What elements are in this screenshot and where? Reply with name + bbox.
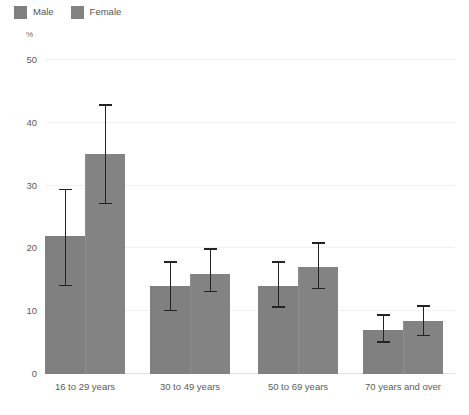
error-bar-cap-bottom bbox=[204, 291, 217, 293]
x-axis-label: 30 to 49 years bbox=[160, 381, 220, 392]
legend-item-female[interactable]: Female bbox=[71, 6, 122, 19]
error-bar-cap-bottom bbox=[377, 341, 390, 343]
error-bar-stem bbox=[318, 242, 320, 289]
error-bar bbox=[272, 261, 285, 308]
error-bar-cap-bottom bbox=[272, 306, 285, 308]
error-bar-cap-bottom bbox=[417, 335, 430, 337]
legend-label-female: Female bbox=[90, 7, 122, 17]
error-bar bbox=[59, 189, 72, 286]
error-bar bbox=[164, 261, 177, 311]
legend-item-male[interactable]: Male bbox=[14, 6, 54, 19]
bar-chart: Male Female % 01020304050 16 to 29 years… bbox=[0, 0, 469, 415]
y-axis-tick-label: 20 bbox=[26, 242, 37, 253]
error-bar-stem bbox=[105, 104, 107, 204]
error-bar-stem bbox=[278, 261, 280, 308]
error-bar-cap-bottom bbox=[164, 310, 177, 312]
bar-group bbox=[363, 60, 443, 374]
error-bar bbox=[377, 314, 390, 342]
legend-swatch-male bbox=[14, 6, 27, 19]
bar-group bbox=[45, 60, 125, 374]
legend-label-male: Male bbox=[33, 7, 54, 17]
x-axis-label: 16 to 29 years bbox=[55, 381, 115, 392]
y-axis-tick-label: 50 bbox=[26, 54, 37, 65]
error-bar bbox=[99, 104, 112, 204]
error-bar-stem bbox=[65, 189, 67, 286]
y-axis-tick-label: 0 bbox=[32, 368, 37, 379]
chart-legend: Male Female bbox=[14, 4, 121, 20]
y-axis-tick-label: 40 bbox=[26, 116, 37, 127]
x-axis-label: 50 to 69 years bbox=[268, 381, 328, 392]
plot-area: 01020304050 bbox=[45, 60, 455, 374]
error-bar-stem bbox=[170, 261, 172, 311]
legend-swatch-female bbox=[71, 6, 84, 19]
error-bar bbox=[312, 242, 325, 289]
error-bar-stem bbox=[210, 248, 212, 292]
y-axis-tick-label: 30 bbox=[26, 179, 37, 190]
error-bar-cap-bottom bbox=[99, 203, 112, 205]
x-axis-label: 70 years and over bbox=[365, 381, 441, 392]
error-bar-stem bbox=[423, 305, 425, 336]
error-bar bbox=[204, 248, 217, 292]
error-bar-cap-bottom bbox=[59, 285, 72, 287]
error-bar-cap-bottom bbox=[312, 288, 325, 290]
error-bar-stem bbox=[383, 314, 385, 342]
error-bar bbox=[417, 305, 430, 336]
bar-group bbox=[258, 60, 338, 374]
bar-group bbox=[150, 60, 230, 374]
y-axis-unit-label: % bbox=[26, 30, 33, 39]
y-axis-tick-label: 10 bbox=[26, 305, 37, 316]
